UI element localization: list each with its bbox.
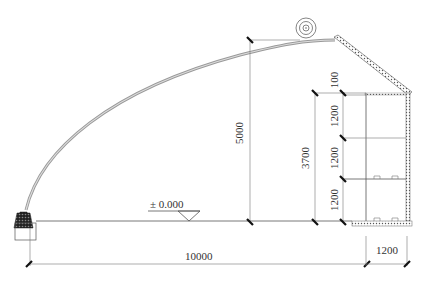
wall-depth-label: 1200 (376, 244, 399, 256)
front-footing (14, 212, 36, 240)
ground-level-marker: ± 0.000 (148, 198, 200, 221)
wall-segment-dimensions: 100 1200 1200 1200 (328, 71, 366, 225)
span-dimension: 10000 (26, 228, 370, 267)
wall-segment-2-label: 1200 (328, 147, 340, 170)
wall-segment-3-label: 1200 (328, 189, 340, 212)
ridge-height-label: 5000 (233, 122, 245, 145)
wall-depth-dimension: 1200 (366, 236, 410, 267)
ridge-height-dimension: 5000 (233, 37, 300, 225)
span-label: 10000 (185, 250, 213, 262)
wall-segment-1-label: 1200 (328, 105, 340, 128)
arched-film-roof (26, 40, 335, 210)
ground-level-label: ± 0.000 (150, 198, 184, 210)
wall-top-offset-label: 100 (328, 71, 340, 88)
north-wall-shelving (343, 93, 412, 226)
greenhouse-section-drawing: ± 0.000 5000 3700 100 1200 1200 1200 (0, 0, 432, 281)
insulation-roll-icon (296, 18, 316, 38)
back-roof-slope (334, 35, 412, 95)
wall-height-label: 3700 (299, 147, 311, 170)
